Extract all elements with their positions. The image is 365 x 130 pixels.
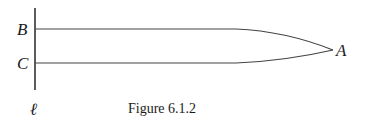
- label-line-l: ℓ: [30, 100, 37, 119]
- label-c: C: [17, 54, 29, 73]
- upper-curve-b-to-a: [35, 29, 333, 50]
- lower-curve-c-to-a: [35, 50, 333, 63]
- label-b: B: [17, 20, 28, 39]
- figure-diagram: B C A ℓ Figure 6.1.2: [0, 0, 365, 130]
- figure-caption: Figure 6.1.2: [128, 101, 196, 116]
- label-a: A: [335, 41, 347, 60]
